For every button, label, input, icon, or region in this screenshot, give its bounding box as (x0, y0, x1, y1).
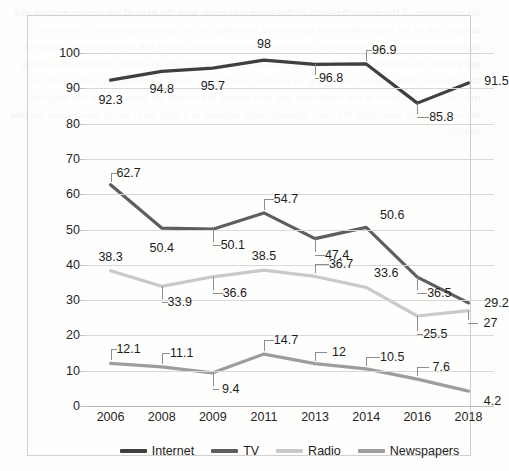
data-label-leader (264, 340, 265, 351)
data-label-leader (366, 357, 367, 366)
y-axis-tick-label: 30 (40, 293, 80, 307)
data-label: 62.7 (116, 166, 140, 180)
data-label-leader (162, 286, 163, 299)
data-label-leader (417, 293, 427, 294)
gridline-50 (85, 230, 494, 231)
legend-label: TV (243, 444, 259, 458)
y-axis-tick-label: 80 (40, 117, 80, 131)
data-label: 50.4 (150, 241, 174, 255)
data-label: 50.6 (380, 208, 404, 222)
legend-item-tv[interactable]: TV (211, 444, 259, 458)
data-label: 92.3 (98, 93, 122, 107)
data-label-leader (417, 367, 429, 368)
legend-item-newspapers[interactable]: Newspapers (358, 444, 459, 458)
x-axis-tick-label: 2014 (352, 410, 380, 424)
data-label: 50.1 (221, 238, 245, 252)
data-label-leader (162, 353, 163, 364)
data-label-leader (468, 323, 478, 324)
y-axis-tick-label: 50 (40, 223, 80, 237)
legend-item-internet[interactable]: Internet (120, 444, 194, 458)
data-label: 98 (257, 37, 271, 51)
data-label-leader (315, 64, 316, 75)
data-label-leader (264, 199, 265, 210)
data-label: 10.5 (380, 350, 404, 364)
line-series-newspapers (111, 354, 469, 391)
data-label-leader (213, 373, 214, 386)
gridline-40 (85, 265, 494, 266)
data-label: 96.9 (372, 43, 396, 57)
gridline-30 (85, 300, 494, 301)
data-label-leader (315, 239, 316, 252)
data-label-leader (111, 173, 117, 174)
data-label: 27 (483, 316, 497, 330)
x-axis-tick-label: 2018 (455, 410, 483, 424)
data-label-leader (417, 316, 418, 331)
data-label: 11.1 (170, 346, 193, 360)
x-axis-labels: 20062008200920112013201420162018 (85, 410, 494, 428)
data-label-leader (417, 103, 418, 114)
x-axis-tick-label: 2011 (250, 410, 277, 424)
data-label-leader (366, 50, 372, 51)
chart-legend: InternetTVRadioNewspapers (85, 440, 494, 462)
legend-swatch-icon (358, 449, 385, 452)
data-label-leader (264, 199, 274, 200)
line-series-radio (111, 270, 469, 316)
data-label: 33.9 (168, 295, 192, 309)
x-axis-tick-label: 2006 (97, 410, 125, 424)
data-label-leader (213, 293, 223, 294)
legend-swatch-icon (211, 449, 238, 452)
y-axis-labels: 0102030405060708090100 (38, 53, 80, 406)
data-label-leader (315, 264, 329, 265)
data-label: 36.5 (427, 286, 451, 300)
data-label: 96.8 (319, 71, 343, 85)
data-label-leader (213, 229, 214, 242)
data-label: 9.4 (222, 382, 239, 396)
data-label-leader (315, 352, 316, 361)
data-label: 54.7 (274, 192, 298, 206)
gridline-0 (85, 406, 494, 407)
data-label-leader (315, 352, 327, 353)
data-label: 36.6 (223, 286, 247, 300)
data-label-leader (468, 311, 469, 320)
x-axis-tick-label: 2013 (301, 410, 329, 424)
data-label-leader (213, 245, 221, 246)
data-label-leader (417, 367, 418, 376)
data-label: 94.8 (150, 82, 174, 96)
data-label-leader (315, 264, 316, 273)
data-label: 91.5 (484, 74, 508, 88)
data-label: 29.2 (484, 296, 508, 310)
data-label-leader (417, 334, 423, 335)
data-label: 4.2 (484, 394, 501, 408)
data-label-leader (111, 173, 112, 182)
y-axis-tick-label: 60 (40, 187, 80, 201)
gridline-90 (85, 88, 494, 89)
data-label: 14.7 (274, 333, 298, 347)
data-label: 7.6 (433, 360, 450, 374)
data-label-leader (111, 349, 117, 350)
data-label-leader (111, 349, 112, 360)
data-label-leader (417, 117, 429, 118)
data-label-leader (264, 340, 274, 341)
data-label: 38.5 (252, 249, 276, 263)
data-label-leader (315, 78, 319, 79)
x-axis-tick-label: 2008 (148, 410, 176, 424)
data-label-leader (417, 277, 418, 290)
data-label: 12.1 (116, 342, 140, 356)
data-label: 36.7 (329, 257, 353, 271)
data-label-leader (213, 389, 219, 390)
gridline-100 (85, 53, 494, 54)
data-label-leader (366, 50, 367, 61)
data-label: 38.3 (98, 250, 122, 264)
y-axis-tick-label: 90 (40, 81, 80, 95)
legend-label: Radio (308, 444, 341, 458)
data-label-leader (213, 277, 214, 290)
legend-item-radio[interactable]: Radio (276, 444, 341, 458)
y-axis-tick-label: 10 (40, 364, 80, 378)
x-axis-tick-label: 2016 (403, 410, 431, 424)
legend-swatch-icon (276, 449, 303, 452)
data-label: 33.6 (374, 266, 398, 280)
data-label: 12 (332, 345, 346, 359)
legend-label: Internet (152, 444, 194, 458)
y-axis-tick-label: 70 (40, 152, 80, 166)
y-axis-tick-label: 40 (40, 258, 80, 272)
